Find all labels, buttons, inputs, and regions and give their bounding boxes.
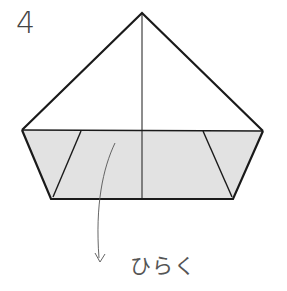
origami-diagram [0, 0, 287, 291]
arrowhead-icon [95, 253, 105, 262]
step-number: 4 [16, 8, 35, 38]
instruction-label: ひらく [130, 256, 196, 277]
